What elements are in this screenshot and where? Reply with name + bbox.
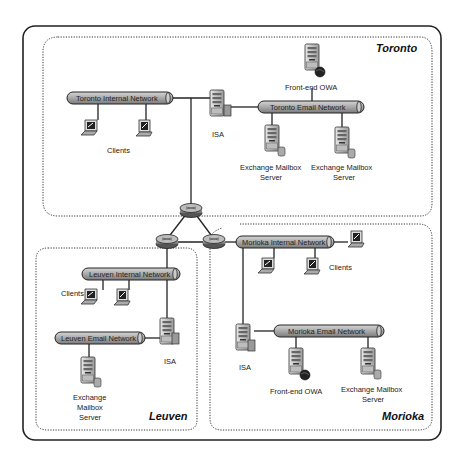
svg-text:Server: Server <box>79 413 102 422</box>
server-icon <box>289 348 303 374</box>
clients-label-leuven: Clients <box>61 289 84 298</box>
server-icon <box>305 44 319 70</box>
router-icon-toronto <box>180 204 202 218</box>
network-diagram: Toronto Leuven Morioka Toronto Internal … <box>0 0 460 459</box>
firewall-icon <box>224 105 231 116</box>
clients-label-toronto: Clients <box>107 146 130 155</box>
svg-text:Front-end OWA: Front-end OWA <box>285 83 337 92</box>
network-morioka-internal: Morioka Internal Network <box>236 236 334 248</box>
svg-text:Exchange Mailbox: Exchange Mailbox <box>240 163 302 172</box>
site-label-toronto: Toronto <box>376 42 417 54</box>
network-toronto-email: Toronto Email Network <box>258 101 364 113</box>
label-morioka-internal: Morioka Internal Network <box>242 238 326 247</box>
svg-text:Server: Server <box>362 395 385 404</box>
server-icon <box>265 125 279 151</box>
label-morioka-email: Morioka Email Network <box>288 327 365 336</box>
label-leuven-internal: Leuven Internal Network <box>89 270 171 279</box>
database-icon <box>348 149 355 158</box>
database-icon <box>278 147 285 156</box>
svg-text:Exchange Mailbox: Exchange Mailbox <box>311 163 373 172</box>
network-leuven-email: Leuven Email Network <box>55 332 145 344</box>
svg-text:ISA: ISA <box>164 357 176 366</box>
svg-text:ISA: ISA <box>212 130 224 139</box>
label-leuven-email: Leuven Email Network <box>61 334 136 343</box>
svg-text:Front-end OWA: Front-end OWA <box>270 387 322 396</box>
server-icon <box>210 90 224 116</box>
server-icon <box>335 127 349 153</box>
firewall-icon <box>248 340 255 351</box>
svg-text:Server: Server <box>260 173 283 182</box>
clients-label-morioka: Clients <box>329 263 352 272</box>
network-morioka-email: Morioka Email Network <box>274 325 384 337</box>
server-icon <box>81 357 95 383</box>
svg-text:Exchange Mailbox: Exchange Mailbox <box>341 385 403 394</box>
database-icon <box>374 370 381 379</box>
site-label-morioka: Morioka <box>382 410 424 422</box>
svg-text:ISA: ISA <box>239 363 251 372</box>
router-icon-leuven <box>156 235 178 249</box>
label-toronto-email: Toronto Email Network <box>270 103 346 112</box>
svg-text:Server: Server <box>333 173 356 182</box>
label-toronto-internal: Toronto Internal Network <box>76 94 158 103</box>
database-icon <box>94 378 101 387</box>
server-icon <box>361 348 375 374</box>
network-leuven-internal: Leuven Internal Network <box>82 268 180 280</box>
router-icon-morioka <box>203 235 225 249</box>
firewall-icon <box>172 333 179 344</box>
site-label-leuven: Leuven <box>149 410 188 422</box>
svg-text:Exchange: Exchange <box>73 393 106 402</box>
network-toronto-internal: Toronto Internal Network <box>67 92 173 104</box>
svg-text:Mailbox: Mailbox <box>77 403 103 412</box>
